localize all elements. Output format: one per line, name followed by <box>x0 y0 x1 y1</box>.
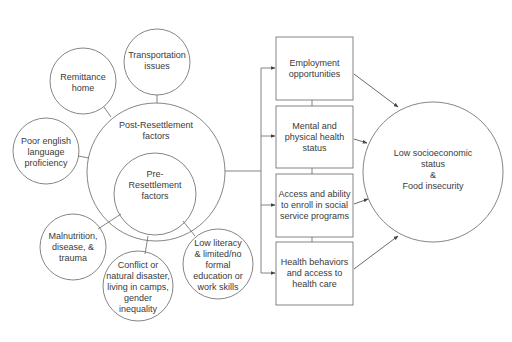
post-resettlement-label: Post-Resettlement factors <box>106 118 206 144</box>
english-label: Poor english language proficiency <box>13 134 79 170</box>
connector-literacy <box>183 221 195 236</box>
transportation-label: Transportation issues <box>124 48 190 74</box>
employment-label: Employment opportunities <box>276 37 353 100</box>
pre-resettlement-label: Pre- Resettlement factors <box>120 167 190 203</box>
connector-malnutrition <box>98 214 121 229</box>
connector-conflict <box>145 236 148 254</box>
outcome-label: Low socioeconomic status & Food insecuri… <box>383 146 483 194</box>
arrow-mental-outcome <box>354 139 367 143</box>
arrow-health-outcome <box>354 236 398 269</box>
mental-label: Mental and physical health status <box>276 106 353 168</box>
arrow-access-outcome <box>354 199 368 204</box>
arrow-employment-outcome <box>354 74 398 107</box>
health-label: Health behaviors and access to health ca… <box>276 242 353 305</box>
literacy-label: Low literacy & limited/no formal educati… <box>182 237 254 293</box>
conflict-label: Conflict or natural disaster, living in … <box>102 259 174 315</box>
connector-english <box>78 156 89 158</box>
access-label: Access and ability to enroll in social s… <box>276 174 353 237</box>
remittance-label: Remittance home <box>50 70 116 96</box>
connector-remittance <box>104 107 111 117</box>
malnutrition-label: Malnutrition, disease, & trauma <box>40 229 106 265</box>
